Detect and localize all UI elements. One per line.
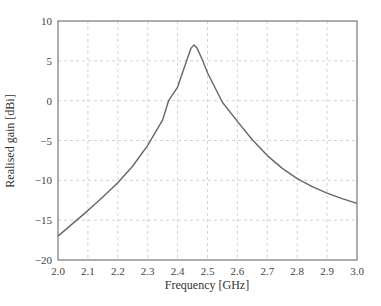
x-axis-label: Frequency [GHz] [165, 278, 249, 292]
grid-lines [58, 21, 357, 260]
y-tick-label: −15 [35, 214, 53, 226]
y-tick-label: 10 [41, 15, 53, 27]
x-tick-label: 2.3 [141, 265, 155, 277]
y-axis-label: Realised gain [dBi] [3, 94, 17, 187]
x-tick-label: 2.6 [231, 265, 245, 277]
x-tick-label: 2.2 [111, 265, 125, 277]
y-tick-label: −20 [35, 254, 53, 266]
x-tick-label: 2.7 [260, 265, 274, 277]
x-tick-label: 3.0 [350, 265, 364, 277]
x-tick-label: 2.9 [320, 265, 334, 277]
y-axis-ticks: 1050−5−10−15−20 [35, 15, 53, 266]
x-tick-label: 2.0 [51, 265, 65, 277]
x-tick-label: 2.5 [201, 265, 215, 277]
y-tick-label: 0 [47, 95, 53, 107]
gain-vs-frequency-chart: 2.02.12.22.32.42.52.62.72.82.93.0 1050−5… [0, 0, 381, 306]
y-tick-label: 5 [47, 55, 53, 67]
x-axis-ticks: 2.02.12.22.32.42.52.62.72.82.93.0 [51, 265, 364, 277]
x-tick-label: 2.1 [81, 265, 95, 277]
x-tick-label: 2.4 [171, 265, 185, 277]
y-tick-label: −5 [40, 135, 52, 147]
y-tick-label: −10 [35, 174, 53, 186]
x-tick-label: 2.8 [290, 265, 304, 277]
